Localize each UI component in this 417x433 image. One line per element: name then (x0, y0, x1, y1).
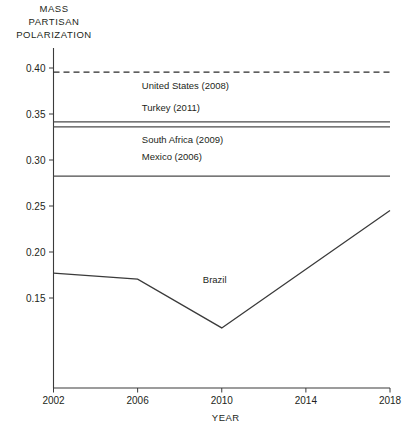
x-tick-label: 2018 (379, 395, 402, 406)
x-tick-label: 2014 (295, 395, 318, 406)
series-line-brazil (54, 211, 391, 328)
series-labels-group: United States (2008)Turkey (2011)South A… (142, 80, 229, 285)
x-tick-label: 2010 (211, 395, 234, 406)
y-tick-label: 0.15 (26, 293, 46, 304)
y-tick-marks (49, 68, 54, 298)
series-label-brazil: Brazil (203, 274, 227, 285)
y-tick-label: 0.40 (26, 63, 46, 74)
y-tick-label: 0.20 (26, 247, 46, 258)
x-tick-labels: 20022006201020142018 (42, 395, 401, 406)
x-tick-marks (54, 388, 391, 393)
series-label-south-africa-2009: South Africa (2009) (142, 134, 223, 145)
y-tick-label: 0.30 (26, 155, 46, 166)
y-tick-label: 0.35 (26, 109, 46, 120)
x-axis-title: YEAR (212, 412, 240, 423)
y-tick-label: 0.25 (26, 201, 46, 212)
x-tick-label: 2006 (127, 395, 150, 406)
data-series-group (54, 72, 391, 328)
y-tick-labels: 0.150.200.250.300.350.40 (26, 63, 46, 304)
plot-canvas: 0.150.200.250.300.350.40 200220062010201… (0, 0, 417, 433)
chart-figure: MASS PARTISAN POLARIZATION 0.150.200.250… (0, 0, 417, 433)
series-label-turkey-2011: Turkey (2011) (142, 102, 200, 113)
series-label-united-states-2008: United States (2008) (142, 80, 229, 91)
series-label-mexico-2006: Mexico (2006) (142, 151, 202, 162)
x-tick-label: 2002 (42, 395, 65, 406)
